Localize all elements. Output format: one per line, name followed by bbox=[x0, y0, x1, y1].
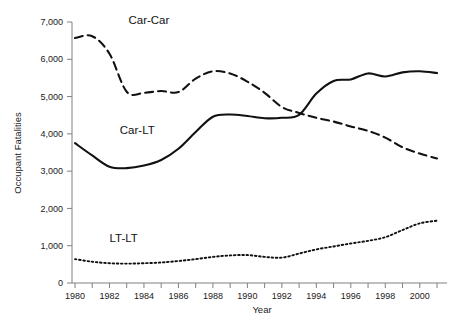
y-axis-title: Occupant Fatalities bbox=[12, 112, 23, 194]
x-tick-label: 1996 bbox=[341, 291, 361, 301]
x-tick-label: 2000 bbox=[410, 291, 430, 301]
x-tick-label: 1984 bbox=[134, 291, 154, 301]
x-tick-label: 1998 bbox=[375, 291, 395, 301]
series-label-car-lt: Car-LT bbox=[120, 124, 155, 136]
y-tick-label: 6,000 bbox=[40, 54, 63, 64]
x-axis-title: Year bbox=[252, 304, 271, 315]
series-label-car-car: Car-Car bbox=[128, 14, 169, 26]
y-tick-label: 3,000 bbox=[40, 166, 63, 176]
x-tick-label: 1992 bbox=[272, 291, 292, 301]
y-tick-label: 7,000 bbox=[40, 17, 63, 27]
x-axis-ticks: 1980198219841986198819901992199419961998… bbox=[65, 283, 437, 301]
series-label-lt-lt: LT-LT bbox=[109, 232, 137, 244]
line-chart: 01,0002,0003,0004,0005,0006,0007,000 198… bbox=[0, 0, 462, 329]
y-tick-label: 4,000 bbox=[40, 129, 63, 139]
y-tick-label: 2,000 bbox=[40, 204, 63, 214]
y-tick-label: 5,000 bbox=[40, 92, 63, 102]
x-tick-label: 1990 bbox=[237, 291, 257, 301]
y-axis-ticks: 01,0002,0003,0004,0005,0006,0007,000 bbox=[40, 17, 72, 288]
series-line-car-car bbox=[75, 35, 437, 158]
series-paths-group bbox=[75, 35, 437, 263]
y-tick-label: 0 bbox=[58, 278, 63, 288]
x-tick-label: 1988 bbox=[203, 291, 223, 301]
series-labels-group: Car-CarCar-LTLT-LT bbox=[109, 14, 169, 244]
x-tick-label: 1980 bbox=[65, 291, 85, 301]
x-tick-label: 1994 bbox=[306, 291, 326, 301]
x-tick-label: 1982 bbox=[99, 291, 119, 301]
x-tick-label: 1986 bbox=[168, 291, 188, 301]
y-tick-label: 1,000 bbox=[40, 241, 63, 251]
chart-container: 01,0002,0003,0004,0005,0006,0007,000 198… bbox=[0, 0, 462, 329]
